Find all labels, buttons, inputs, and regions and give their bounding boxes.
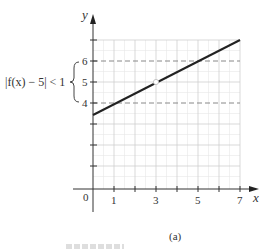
x-tick-1: 1 [111,194,117,206]
x-tick-5: 5 [195,194,201,206]
ticks [90,40,240,192]
x-tick-7: 7 [237,194,243,206]
y-axis-label: y [80,7,88,22]
y-axis-arrow-icon [90,14,96,24]
open-point [153,79,158,84]
x-axis-label: x [252,190,259,205]
inequality-annotation: |f(x) − 5| < 1 [5,75,65,89]
y-tick-4: 4 [82,97,88,109]
cut-off-caption [66,244,124,249]
axes [73,20,252,212]
y-tick-5: 5 [82,76,88,88]
y-tick-6: 6 [82,55,88,67]
minor-grid [93,40,240,189]
chart: y x 0 1 3 5 7 6 5 4 |f(x) − 5| < 1 (a) [0,0,272,249]
subfigure-label: (a) [169,230,182,243]
brace-icon [70,62,79,102]
origin-label: 0 [83,191,89,203]
x-tick-3: 3 [153,194,159,206]
